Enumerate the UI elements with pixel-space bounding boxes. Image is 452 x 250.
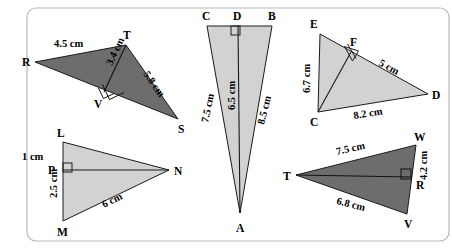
geometry-figure: R T S V 4.5 cm 3.4 cm 5.8 cm C B A D 7.5… [0,0,452,250]
vertex-label-e: E [310,18,318,30]
vertex-label-n: N [174,165,183,177]
measure-label-pm: 2.5 cm [48,169,59,198]
vertex-label-a: A [236,222,245,234]
vertex-label-b: B [268,10,276,22]
measure-label-cd: 8.2 cm [353,106,384,121]
vertex-label-d: D [233,10,241,22]
vertex-label-w: W [414,131,426,143]
triangle-rts: R T S V 4.5 cm 3.4 cm 5.8 cm [22,29,184,135]
triangle-twv: T W V R 7.5 cm 4.2 cm 6.8 cm [283,131,429,230]
triangle-cba: C B A D 7.5 cm 6.5 cm 8.5 cm [199,10,276,234]
vertex-label-l: L [57,127,65,139]
vertex-label-c2: C [310,116,318,128]
vertex-label-d2: D [432,89,440,101]
vertex-label-r: R [22,56,31,68]
measure-label-lp: 1 cm [22,151,44,162]
measure-label-tw: 7.5 cm [335,140,366,157]
measure-label-da: 6.5 cm [226,81,237,110]
vertex-label-t: T [123,29,131,41]
measure-label-ec: 6.7 cm [301,64,312,93]
geometry-figure-svg: R T S V 4.5 cm 3.4 cm 5.8 cm C B A D 7.5… [0,0,452,250]
vertex-label-v: V [94,98,103,110]
vertex-label-s: S [178,123,184,135]
measure-label-wr: 4.2 cm [418,151,429,180]
vertex-label-v2: V [404,218,413,230]
measure-label-rt: 4.5 cm [54,38,83,49]
vertex-label-m: M [57,226,68,238]
triangle-ecd: E D C F 6.7 cm 5 cm 8.2 cm [301,18,440,128]
triangle-lmn: L M N P 1 cm 2.5 cm 6 cm [22,127,183,238]
triangle-lmn-body [63,142,169,221]
vertex-label-t2: T [283,170,291,182]
vertex-label-f: F [350,36,357,48]
vertex-label-c: C [202,10,210,22]
measure-label-ca: 7.5 cm [199,92,216,123]
triangle-ecd-body [318,34,428,112]
